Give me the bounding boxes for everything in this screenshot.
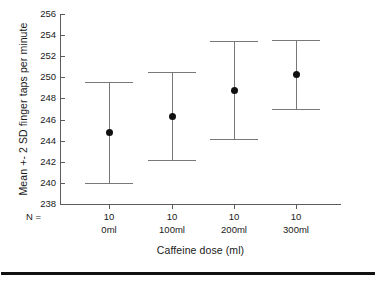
error-bar-lower-cap [210, 139, 258, 140]
error-bar-upper-cap [148, 72, 196, 73]
y-tick-label: 252 [20, 50, 56, 61]
y-tick-mark [61, 204, 65, 205]
y-tick-label: 248 [20, 92, 56, 103]
y-tick-mark [61, 98, 65, 99]
error-bar-upper-cap [210, 41, 258, 42]
bottom-rule [1, 272, 375, 275]
y-tick-mark [61, 56, 65, 57]
y-tick-mark [61, 35, 65, 36]
y-tick-label: 246 [20, 114, 56, 125]
error-bar-lower-cap [85, 183, 133, 184]
y-tick-label: 250 [20, 71, 56, 82]
category-n-value: 10 [79, 211, 139, 222]
error-bar-upper-cap [85, 82, 133, 83]
category-n-value: 10 [142, 211, 202, 222]
category-label: 0ml [79, 224, 139, 235]
y-tick-label: 256 [20, 8, 56, 19]
y-tick-label: 242 [20, 156, 56, 167]
category-label: 100ml [142, 224, 202, 235]
error-bar-chart: Mean +- 2 SD finger taps per minute 2382… [0, 0, 376, 281]
y-axis-line [60, 14, 61, 205]
y-tick-mark [61, 120, 65, 121]
x-axis-line [60, 204, 341, 205]
mean-marker [169, 113, 176, 120]
y-tick-mark [61, 162, 65, 163]
x-tick-mark [296, 205, 297, 209]
category-n-value: 10 [266, 211, 326, 222]
y-tick-mark [61, 141, 65, 142]
error-bar-lower-cap [148, 160, 196, 161]
y-tick-mark [61, 77, 65, 78]
category-n-value: 10 [204, 211, 264, 222]
error-bar-upper-cap [272, 40, 320, 41]
mean-marker [231, 87, 238, 94]
mean-marker [106, 129, 113, 136]
y-tick-mark [61, 14, 65, 15]
x-tick-mark [172, 205, 173, 209]
error-bar-lower-cap [272, 109, 320, 110]
mean-marker [293, 71, 300, 78]
x-tick-mark [234, 205, 235, 209]
category-label: 200ml [204, 224, 264, 235]
n-equals-label: N = [26, 211, 41, 222]
x-axis-title: Caffeine dose (ml) [61, 244, 340, 256]
y-tick-mark [61, 183, 65, 184]
x-tick-mark [109, 205, 110, 209]
y-tick-label: 240 [20, 177, 56, 188]
y-tick-label: 254 [20, 29, 56, 40]
category-label: 300ml [266, 224, 326, 235]
y-tick-label: 238 [20, 198, 56, 209]
y-tick-label: 244 [20, 135, 56, 146]
